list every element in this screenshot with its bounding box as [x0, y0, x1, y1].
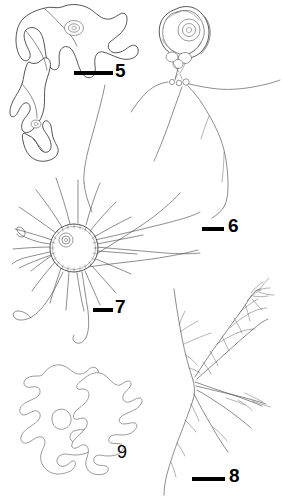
figure-number-7: 7	[115, 297, 126, 316]
scale-bar-fig6	[202, 227, 224, 231]
figure-plate: 5 6 7 8 9	[0, 0, 282, 498]
scale-bar-fig5	[74, 71, 113, 75]
figure-number-8: 8	[229, 466, 240, 485]
figure-number-9: 9	[117, 443, 127, 461]
scale-bar-fig8	[192, 477, 225, 481]
panel-9-drawing	[0, 0, 282, 498]
figure-number-6: 6	[228, 216, 239, 235]
figure-number-5: 5	[115, 61, 126, 80]
scale-bar-fig7	[93, 308, 113, 312]
